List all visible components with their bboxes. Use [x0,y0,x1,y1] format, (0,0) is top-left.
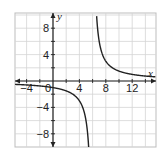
x-tick-label: 8 [103,82,109,94]
x-tick-label: 12 [126,82,138,94]
y-tick-label: −4 [36,101,49,113]
y-axis-label: y [56,10,62,22]
x-tick-label: −4 [20,82,33,94]
y-tick-label: −8 [36,128,49,140]
y-tick-label: 4 [43,49,49,61]
x-axis-label: x [147,67,153,79]
x-tick-label: 4 [76,82,82,94]
rational-function-graph: −40481284−4−8 x y [0,0,166,155]
x-tick-label: 0 [45,82,51,94]
y-tick-label: 8 [43,22,49,34]
